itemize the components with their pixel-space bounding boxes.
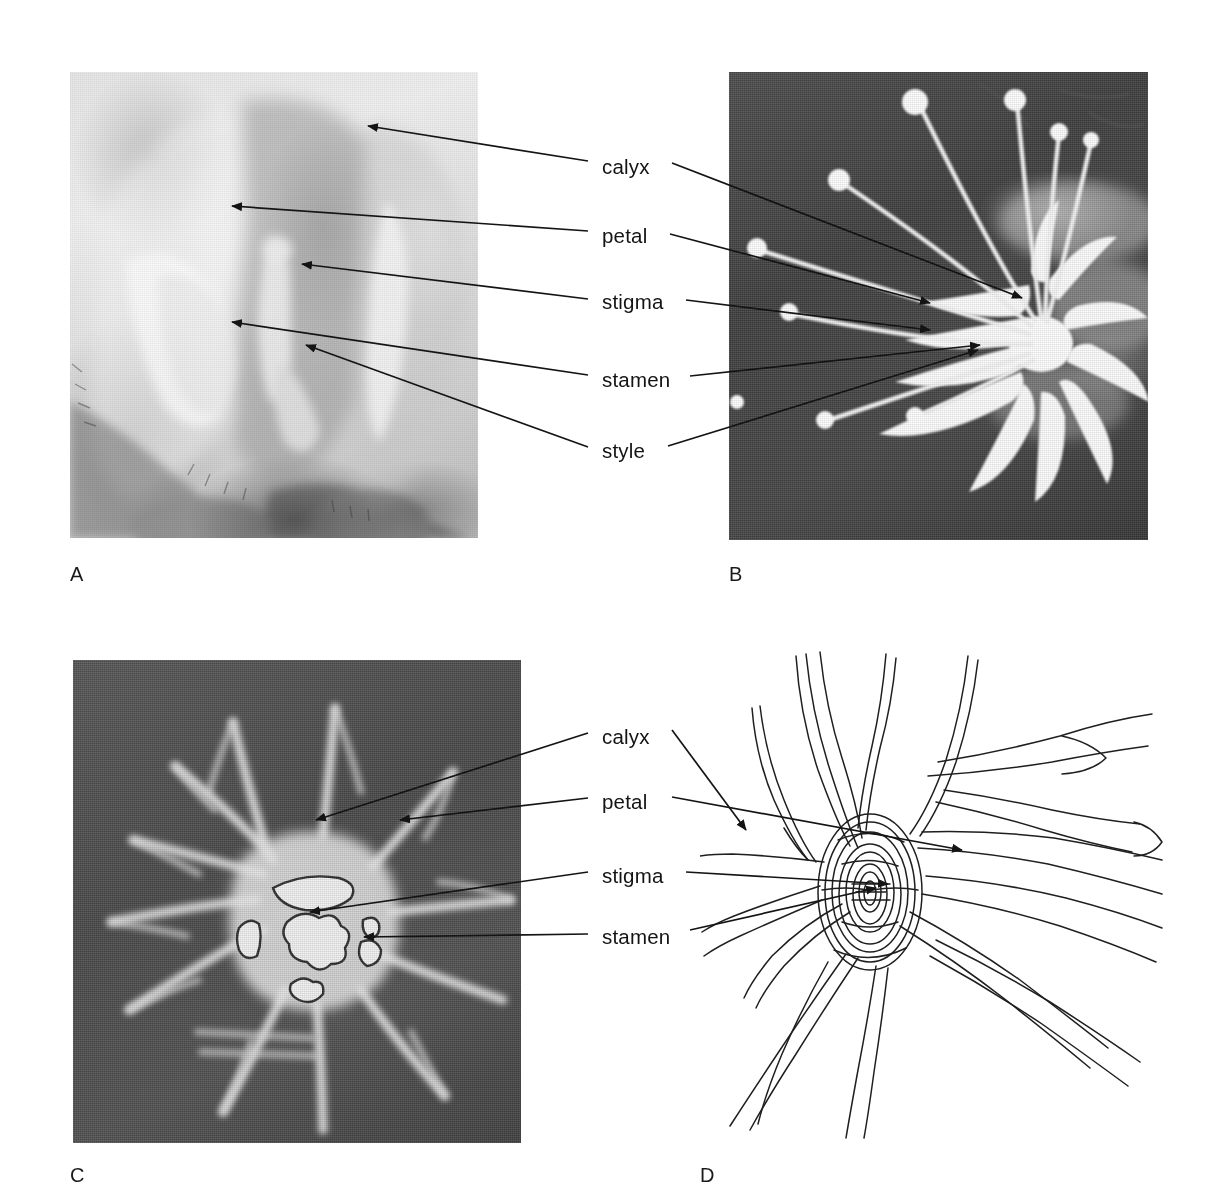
label-calyx-top: calyx [602,155,650,179]
panel-d-image [700,650,1170,1140]
panel-letter-a: A [70,563,84,586]
panel-letter-d: D [700,1164,715,1187]
panel-b-grain [729,72,1148,540]
panel-b-image [729,72,1148,540]
panel-letter-b: B [729,563,743,586]
label-stamen-top: stamen [602,368,670,392]
label-petal-bottom: petal [602,790,647,814]
figure-root: calyx petal stigma stamen style calyx pe… [0,0,1229,1200]
panel-letter-c: C [70,1164,85,1187]
label-style-top: style [602,439,645,463]
label-petal-top: petal [602,224,647,248]
label-calyx-bottom: calyx [602,725,650,749]
label-stigma-top: stigma [602,290,664,314]
panel-c-image [73,660,521,1143]
panel-c-grain [73,660,521,1143]
panel-d-artwork [700,650,1170,1140]
label-stigma-bottom: stigma [602,864,664,888]
label-stamen-bottom: stamen [602,925,670,949]
panel-a-image [70,72,478,538]
panel-a-grain [70,72,478,538]
